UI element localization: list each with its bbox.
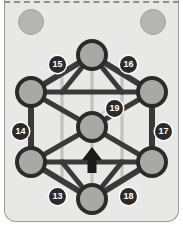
node-label-17[interactable]: 17 bbox=[155, 123, 172, 140]
node-bottom[interactable] bbox=[78, 185, 106, 213]
node-label-14[interactable]: 14 bbox=[12, 123, 29, 140]
node-label-15[interactable]: 15 bbox=[49, 56, 66, 73]
node-label-18[interactable]: 18 bbox=[120, 188, 137, 205]
node-label-19[interactable]: 19 bbox=[106, 100, 123, 117]
node-lower-left[interactable] bbox=[17, 148, 45, 176]
node-upper-right[interactable] bbox=[138, 78, 166, 106]
node-label-16[interactable]: 16 bbox=[120, 56, 137, 73]
node-center[interactable] bbox=[78, 113, 106, 141]
node-label-13[interactable]: 13 bbox=[49, 188, 66, 205]
screenshot-root: 13 14 15 16 17 18 19 bbox=[0, 0, 183, 234]
node-top[interactable] bbox=[78, 41, 106, 69]
node-lower-right[interactable] bbox=[138, 148, 166, 176]
hex-lattice-graph bbox=[0, 0, 183, 234]
up-arrow-icon bbox=[82, 147, 102, 173]
node-upper-left[interactable] bbox=[17, 78, 45, 106]
graph-nodes bbox=[17, 41, 166, 213]
